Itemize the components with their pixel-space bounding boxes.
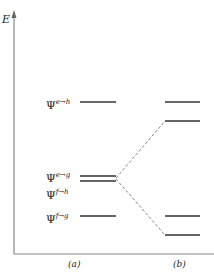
column-label-b: (b) [173, 259, 186, 269]
column-label-a: (a) [68, 259, 80, 269]
correlation-line-down [116, 179, 165, 235]
label-psi-f-g: Ψf→g [46, 208, 69, 227]
label-psi-e-h: Ψe→h [46, 94, 70, 113]
axis-label-e: E [2, 13, 10, 26]
correlation-line-up [116, 121, 165, 178]
energy-level-diagram [0, 0, 214, 279]
label-psi-f-h: Ψf→h [46, 184, 69, 203]
axis-arrow-icon [12, 10, 17, 18]
